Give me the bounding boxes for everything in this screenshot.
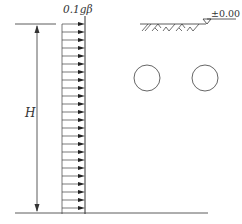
opening-circle-left bbox=[134, 65, 160, 91]
arrowhead-icon bbox=[78, 22, 85, 26]
arrowhead-icon bbox=[78, 134, 85, 138]
load-label: 0.1gβ bbox=[63, 3, 93, 15]
arrowhead-icon bbox=[78, 166, 85, 170]
load-arrows bbox=[62, 22, 85, 210]
arrowhead-icon bbox=[78, 110, 85, 114]
arrowhead-icon bbox=[78, 118, 85, 122]
arrowhead-icon bbox=[78, 158, 85, 162]
elevation-label: ±0.00 bbox=[211, 8, 240, 19]
arrowhead-icon bbox=[78, 30, 85, 34]
height-dimension: H bbox=[24, 25, 40, 212]
dimension-arrow-top-icon bbox=[35, 25, 40, 33]
arrowhead-icon bbox=[78, 206, 85, 210]
arrowhead-icon bbox=[78, 142, 85, 146]
arrowhead-icon bbox=[78, 46, 85, 50]
dimension-arrow-bottom-icon bbox=[35, 204, 40, 212]
arrowhead-icon bbox=[78, 70, 85, 74]
arrowhead-icon bbox=[78, 126, 85, 130]
arrowhead-icon bbox=[78, 190, 85, 194]
soil-hatching-icon bbox=[142, 24, 199, 31]
arrowhead-icon bbox=[78, 94, 85, 98]
arrowhead-icon bbox=[78, 78, 85, 82]
arrowhead-icon bbox=[78, 38, 85, 42]
arrowhead-icon bbox=[78, 102, 85, 106]
distributed-load: 0.1gβ bbox=[62, 3, 93, 214]
opening-circle-right bbox=[192, 65, 218, 91]
elevation-triangle-icon bbox=[203, 19, 211, 24]
elevation-marker: ±0.00 bbox=[203, 8, 240, 24]
arrowhead-icon bbox=[78, 86, 85, 90]
height-label: H bbox=[24, 106, 36, 120]
arrowhead-icon bbox=[78, 62, 85, 66]
ground-surface bbox=[140, 24, 206, 31]
arrowhead-icon bbox=[78, 150, 85, 154]
arrowhead-icon bbox=[78, 54, 85, 58]
arrowhead-icon bbox=[78, 174, 85, 178]
arrowhead-icon bbox=[78, 182, 85, 186]
arrowhead-icon bbox=[78, 198, 85, 202]
structural-load-diagram: H 0.1gβ ±0.00 bbox=[0, 0, 242, 224]
